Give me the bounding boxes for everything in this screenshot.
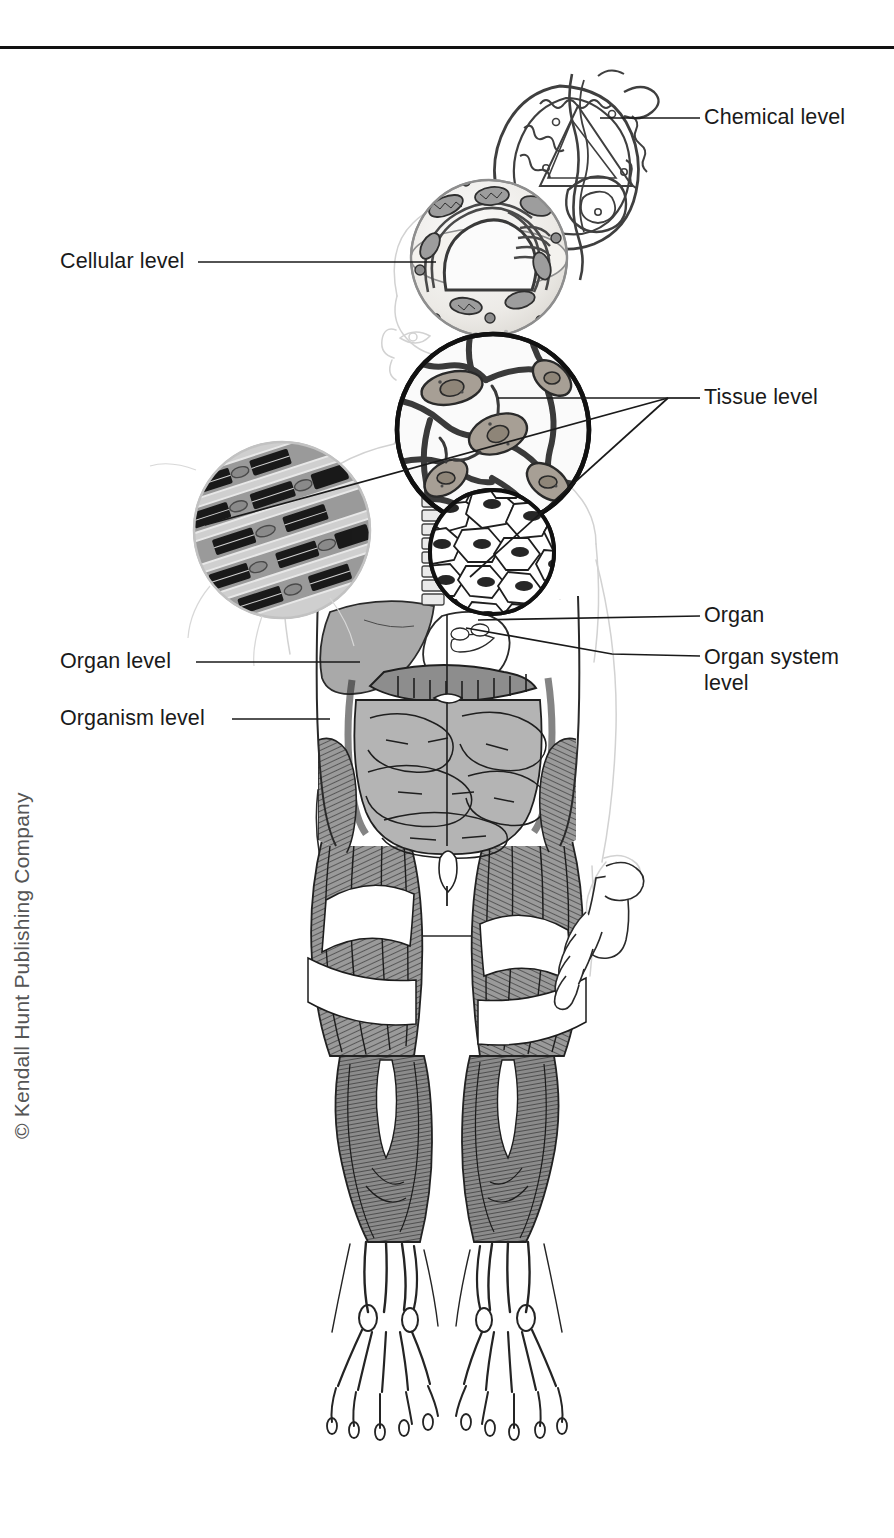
left-foot-skeleton [327, 1242, 438, 1440]
copyright-notice: © Kendall Hunt Publishing Company [10, 759, 44, 1139]
label-organ-system-level: Organ system level [704, 644, 839, 696]
label-chemical-level: Chemical level [704, 104, 845, 130]
label-organism-level: Organism level [60, 705, 205, 731]
label-cellular-level: Cellular level [60, 248, 184, 274]
abdomen-contents [318, 596, 578, 858]
label-organ: Organ [704, 602, 764, 628]
right-foot-skeleton [456, 1242, 567, 1440]
right-thumb [605, 862, 644, 900]
cellular-level-cell [411, 176, 567, 342]
label-tissue-level: Tissue level [704, 384, 818, 410]
anatomy-figure [0, 0, 894, 1538]
small-intestine [354, 700, 541, 854]
organism-body [308, 596, 644, 1440]
figure-page: Chemical level Cellular level Tissue lev… [0, 0, 894, 1538]
label-organ-level: Organ level [60, 648, 171, 674]
